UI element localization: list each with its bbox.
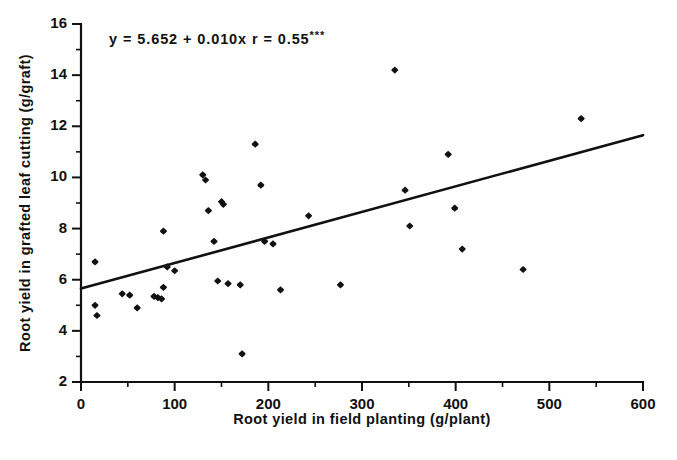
y-tick-label: 2 [59, 372, 67, 389]
y-tick-label: 4 [59, 321, 68, 338]
data-point [224, 280, 231, 287]
data-point [126, 291, 133, 298]
data-point [160, 228, 167, 235]
x-tick-label: 100 [162, 395, 187, 412]
data-point [93, 312, 100, 319]
data-point [337, 281, 344, 288]
data-point [451, 205, 458, 212]
x-tick-label: 400 [443, 395, 468, 412]
data-point [459, 245, 466, 252]
data-point [134, 304, 141, 311]
y-tick-label: 14 [50, 65, 67, 82]
significance-stars: *** [310, 29, 326, 41]
scatter-plot-figure: 2468101214160100200300400500600 y = 5.65… [0, 0, 677, 460]
data-point [578, 115, 585, 122]
y-tick-label: 10 [50, 167, 67, 184]
data-point [119, 290, 126, 297]
data-point [257, 182, 264, 189]
x-axis-title: Root yield in field planting (g/plant) [233, 411, 491, 427]
axes-group [81, 24, 643, 382]
y-axis-title: Root yield in grafted leaf cutting (g/gr… [17, 54, 33, 352]
data-points-group [91, 66, 584, 357]
data-point [269, 240, 276, 247]
x-tick-label: 300 [349, 395, 374, 412]
regression-equation-label: y = 5.652 + 0.010x r = 0.55*** [109, 29, 325, 47]
plot-canvas: 2468101214160100200300400500600 y = 5.65… [0, 0, 677, 460]
x-tick-label: 600 [630, 395, 655, 412]
equation-annotation-group: y = 5.652 + 0.010x r = 0.55*** [109, 29, 325, 47]
data-point [91, 258, 98, 265]
y-tick-label: 12 [50, 116, 67, 133]
x-tick-label: 0 [77, 395, 85, 412]
data-point [391, 66, 398, 73]
data-point [91, 302, 98, 309]
data-point [214, 277, 221, 284]
tick-labels-group: 2468101214160100200300400500600 [50, 14, 655, 412]
data-point [252, 141, 259, 148]
y-tick-label: 8 [59, 219, 67, 236]
data-point [237, 281, 244, 288]
ticks-group [72, 24, 643, 391]
data-point [239, 350, 246, 357]
data-point [401, 187, 408, 194]
equation-text: y = 5.652 + 0.010x r = 0.55 [109, 31, 309, 47]
y-tick-label: 16 [50, 14, 67, 31]
data-point [171, 267, 178, 274]
data-point [305, 212, 312, 219]
data-point [160, 284, 167, 291]
data-point [520, 266, 527, 273]
data-point [205, 207, 212, 214]
data-point [406, 222, 413, 229]
data-point [445, 151, 452, 158]
y-tick-label: 6 [59, 270, 67, 287]
x-tick-label: 500 [537, 395, 562, 412]
data-point [210, 238, 217, 245]
x-tick-label: 200 [256, 395, 281, 412]
data-point [277, 286, 284, 293]
